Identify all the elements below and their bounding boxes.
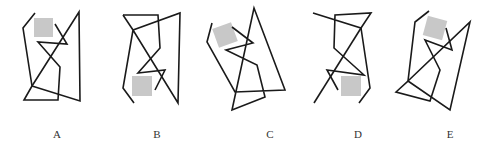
option-label-d: D xyxy=(354,128,362,140)
option-figure-b xyxy=(123,13,180,103)
shaded-square xyxy=(34,18,53,37)
option-label-b: B xyxy=(153,128,160,140)
shaded-square xyxy=(423,16,447,40)
option-label-e: E xyxy=(447,128,454,140)
option-label-a: A xyxy=(53,128,61,140)
option-figure-d xyxy=(313,13,371,103)
option-figure-a xyxy=(23,12,80,101)
shaded-square xyxy=(132,76,152,96)
shaded-square xyxy=(341,76,361,96)
option-figure-e xyxy=(396,11,470,110)
shaded-square xyxy=(212,22,238,48)
option-label-c: C xyxy=(266,128,273,140)
line-path xyxy=(207,8,285,110)
option-figure-c xyxy=(207,8,285,110)
figure-canvas xyxy=(0,0,493,154)
